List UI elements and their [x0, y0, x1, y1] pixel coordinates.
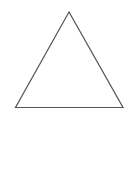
diagram-canvas — [0, 0, 138, 173]
triangle-diagram — [0, 0, 138, 173]
triangle-shape — [16, 12, 124, 108]
